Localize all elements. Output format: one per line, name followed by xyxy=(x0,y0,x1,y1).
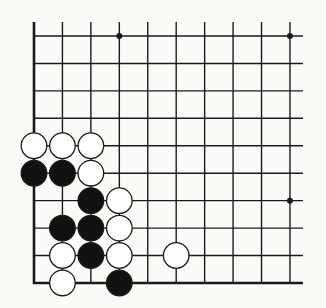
white-stone[interactable] xyxy=(50,133,76,159)
go-board xyxy=(0,0,326,308)
black-stone[interactable] xyxy=(107,270,133,296)
black-stone[interactable] xyxy=(50,215,76,241)
black-stone[interactable] xyxy=(78,243,104,269)
black-stone[interactable] xyxy=(21,160,47,186)
black-stone[interactable] xyxy=(78,215,104,241)
black-stone[interactable] xyxy=(78,188,104,214)
white-stone[interactable] xyxy=(163,243,189,269)
white-stone[interactable] xyxy=(107,188,133,214)
white-stone[interactable] xyxy=(107,243,133,269)
stones xyxy=(21,133,189,296)
white-stone[interactable] xyxy=(78,133,104,159)
white-stone[interactable] xyxy=(107,215,133,241)
black-stone[interactable] xyxy=(50,160,76,186)
star-point xyxy=(116,33,122,39)
star-point xyxy=(287,33,293,39)
white-stone[interactable] xyxy=(21,133,47,159)
star-point xyxy=(287,198,293,204)
white-stone[interactable] xyxy=(50,270,76,296)
white-stone[interactable] xyxy=(78,160,104,186)
white-stone[interactable] xyxy=(50,243,76,269)
